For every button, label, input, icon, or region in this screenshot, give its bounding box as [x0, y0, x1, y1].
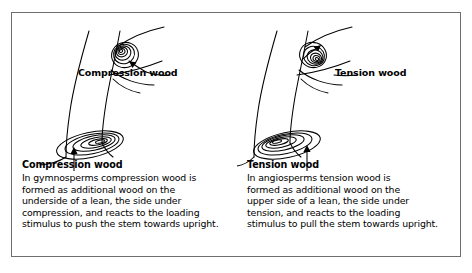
tension-wood-illustration — [237, 13, 462, 173]
figure-root: Compression wood Compression wood In gym… — [0, 0, 472, 273]
caption-body-tension: In angiosperms tension wood is formed as… — [247, 172, 459, 230]
caption-line: formed as additional wood on the — [247, 184, 459, 196]
branch-upper-outline — [305, 27, 352, 47]
panel-tension-wood: Tension wood Tension wood In angiosperms… — [237, 13, 462, 258]
caption-line: In angiosperms tension wood is — [247, 172, 459, 184]
caption-body-compression: In gymnosperms compression wood is forme… — [22, 172, 234, 230]
caption-compression-wood: Compression wood In gymnosperms compress… — [22, 159, 234, 230]
panel-compression-wood: Compression wood Compression wood In gym… — [12, 13, 237, 258]
inline-label-tension-wood: Tension wood — [335, 67, 406, 78]
caption-line: stimulus to pull the stem towards uprigh… — [247, 218, 459, 230]
trunk-right-outline — [290, 31, 308, 143]
caption-line: underside of a lean, the side under — [22, 195, 234, 207]
caption-line: compression, and reacts to the loading — [22, 207, 234, 219]
stem-arrow-head — [303, 145, 310, 152]
compression-wood-illustration — [12, 13, 237, 173]
caption-title-tension: Tension wood — [247, 159, 459, 171]
branch-fork-line — [113, 79, 140, 93]
caption-title-compression: Compression wood — [22, 159, 234, 171]
caption-line: In gymnosperms compression wood is — [22, 172, 234, 184]
figure-frame: Compression wood Compression wood In gym… — [11, 12, 461, 257]
caption-line: tension, and reacts to the loading — [247, 207, 459, 219]
caption-line: formed as additional wood on the — [22, 184, 234, 196]
caption-tension-wood: Tension wood In angiosperms tension wood… — [247, 159, 459, 230]
branch-fork-line — [301, 79, 328, 93]
caption-line: stimulus to push the stem towards uprigh… — [22, 218, 234, 230]
caption-line: upper side of a lean, the side under — [247, 195, 459, 207]
inline-label-compression-wood: Compression wood — [78, 67, 178, 78]
